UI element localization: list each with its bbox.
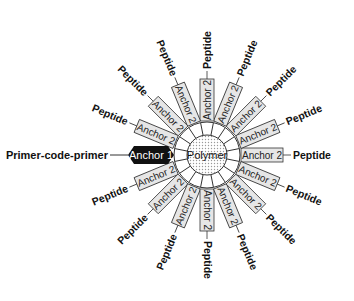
anchor2-label: Anchor 2 bbox=[242, 150, 282, 161]
peptide-label: Peptide bbox=[235, 232, 261, 272]
peptide-label: Peptide bbox=[154, 232, 180, 272]
peptide-label: Peptide bbox=[202, 241, 214, 279]
peptide-label: Peptide bbox=[264, 211, 299, 246]
anchor2-label: Anchor 2 bbox=[202, 80, 213, 120]
polymer-diagram: Anchor 2PeptideAnchor 2PeptideAnchor 2Pe… bbox=[0, 0, 354, 301]
peptide-label: Peptide bbox=[154, 38, 180, 78]
peptide-label: Peptide bbox=[293, 149, 331, 161]
anchor2-label: Anchor 2 bbox=[202, 190, 213, 230]
peptide-label: Peptide bbox=[90, 182, 130, 208]
peptide-label: Peptide bbox=[201, 31, 213, 69]
peptide-label: Peptide bbox=[234, 38, 260, 78]
polymer-label: Polymer bbox=[187, 149, 228, 161]
peptide-label: Peptide bbox=[115, 63, 150, 98]
anchor1-label: Anchor 1 bbox=[129, 149, 173, 161]
spoke: Anchor 2Peptide bbox=[241, 148, 331, 162]
primer-code-primer-label: Primer-code-primer bbox=[6, 149, 109, 161]
peptide-label: Peptide bbox=[263, 63, 298, 98]
peptide-label: Peptide bbox=[284, 182, 324, 208]
spoke: Anchor 2Peptide bbox=[200, 189, 214, 279]
anchor1-group: Anchor 1 Primer-code-primer bbox=[6, 146, 174, 164]
spoke: Anchor 2Peptide bbox=[200, 31, 214, 121]
peptide-label: Peptide bbox=[115, 211, 150, 246]
peptide-label: Peptide bbox=[90, 102, 130, 128]
ring: Polymer bbox=[174, 122, 240, 188]
peptide-label: Peptide bbox=[284, 102, 324, 128]
